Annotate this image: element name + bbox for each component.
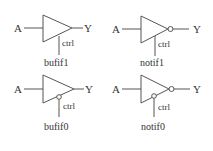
- control-inversion-bubble-icon: [152, 94, 157, 99]
- output-label: Y: [193, 23, 201, 35]
- control-label: ctrl: [158, 39, 170, 49]
- gate-name: notif1: [140, 57, 164, 68]
- output-label: Y: [85, 83, 93, 95]
- output-label: Y: [84, 22, 92, 34]
- control-inversion-bubble-icon: [57, 95, 62, 100]
- input-label: A: [112, 83, 120, 95]
- input-label: A: [112, 23, 120, 35]
- tristate-gates-diagram: A Y ctrl bufif1 A Y ctrl notif1 A Y ctrl…: [0, 0, 213, 151]
- output-inversion-bubble-icon: [168, 27, 173, 32]
- gate-notif0: A Y ctrl notif0: [112, 75, 201, 132]
- gate-notif1: A Y ctrl notif1: [112, 16, 201, 68]
- gate-name: notif0: [141, 121, 165, 132]
- gate-name: bufif0: [44, 121, 68, 132]
- output-inversion-bubble-icon: [169, 87, 174, 92]
- gate-name: bufif1: [44, 57, 68, 68]
- control-label: ctrl: [62, 38, 74, 48]
- gate-bufif0: A Y ctrl bufif0: [14, 75, 93, 132]
- control-label: ctrl: [63, 101, 75, 111]
- output-label: Y: [193, 83, 201, 95]
- inverter-triangle-icon: [141, 75, 169, 103]
- input-label: A: [14, 83, 22, 95]
- control-label: ctrl: [158, 102, 170, 112]
- gate-bufif1: A Y ctrl bufif1: [14, 15, 92, 68]
- input-label: A: [14, 22, 22, 34]
